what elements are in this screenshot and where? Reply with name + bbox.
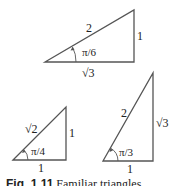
caption-label: Fig. 1.11	[6, 177, 53, 186]
hypotenuse-label: √2	[25, 122, 38, 136]
triangle-pi-3: π/3 2 √3 1	[103, 73, 169, 176]
adjacent-label: 1	[127, 162, 133, 176]
opposite-label: 1	[137, 29, 143, 43]
triangle-pi-6: π/6 2 1 √3	[45, 10, 143, 80]
familiar-triangles-figure: π/6 2 1 √3 π/4 √2 1 1 π/3 2 √3 1 Fig. 1.…	[0, 0, 179, 186]
angle-label: π/3	[119, 146, 134, 158]
opposite-label: 1	[69, 126, 75, 140]
figure-caption: Fig. 1.11 Familiar triangles	[6, 177, 141, 186]
angle-label: π/6	[82, 46, 97, 58]
caption-text: Familiar triangles	[56, 177, 141, 186]
adjacent-label: √3	[82, 66, 95, 80]
opposite-label: √3	[156, 116, 169, 130]
adjacent-label: 1	[38, 161, 44, 175]
angle-arrowhead	[71, 47, 75, 51]
angle-label: π/4	[31, 145, 46, 157]
hypotenuse-label: 2	[86, 21, 92, 35]
triangle-pi-4: π/4 √2 1 1	[13, 107, 75, 175]
hypotenuse-label: 2	[121, 106, 127, 120]
